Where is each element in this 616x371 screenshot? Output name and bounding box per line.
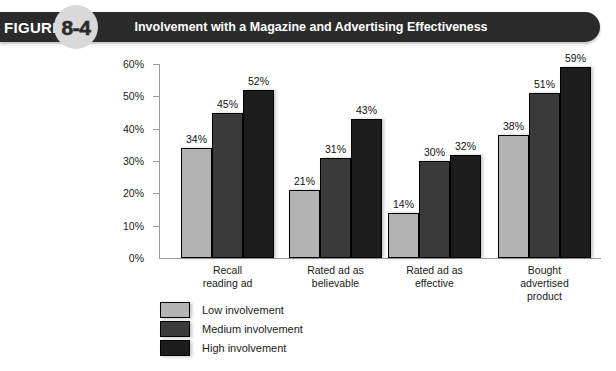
legend-label: Low involvement bbox=[202, 304, 284, 316]
bar: 38% bbox=[498, 135, 529, 258]
bar-value-label: 34% bbox=[186, 133, 207, 145]
legend-label: Medium involvement bbox=[202, 323, 303, 335]
bar-group: 38%51%59%Boughtadvertisedproduct bbox=[498, 64, 591, 258]
bar-value-label: 38% bbox=[503, 120, 524, 132]
plot-bars: 34%45%52%Recallreading ad21%31%43%Rated … bbox=[160, 64, 601, 258]
bar-value-label: 14% bbox=[393, 198, 414, 210]
bar-value-label: 52% bbox=[248, 75, 269, 87]
bar: 52% bbox=[243, 90, 274, 258]
bar-value-label: 43% bbox=[356, 104, 377, 116]
figure-container: FIGURE 8-4 Involvement with a Magazine a… bbox=[0, 0, 616, 371]
figure-title: Involvement with a Magazine and Advertis… bbox=[134, 20, 487, 34]
y-axis-tick-label: 60% bbox=[123, 58, 144, 70]
y-axis-tick-mark bbox=[153, 96, 159, 97]
y-axis-labels: 60%50%40%30%20%10%0% bbox=[96, 52, 144, 258]
y-axis-tick-mark bbox=[153, 129, 159, 130]
bar: 51% bbox=[529, 93, 560, 258]
x-axis-category-label: Rated ad aseffective bbox=[406, 264, 463, 290]
y-axis-tick-label: 30% bbox=[123, 155, 144, 167]
bar-value-label: 30% bbox=[424, 146, 445, 158]
bar: 21% bbox=[289, 190, 320, 258]
figure-number-label: 8-4 bbox=[62, 17, 91, 38]
x-axis-line bbox=[159, 258, 601, 259]
bar-value-label: 31% bbox=[325, 143, 346, 155]
legend-item: Low involvement bbox=[160, 300, 303, 319]
legend-label: High involvement bbox=[202, 342, 286, 354]
bar: 45% bbox=[212, 113, 243, 259]
y-axis-tick-label: 50% bbox=[123, 90, 144, 102]
bar: 34% bbox=[181, 148, 212, 258]
y-axis-tick-label: 20% bbox=[123, 187, 144, 199]
figure-header-bar: FIGURE 8-4 Involvement with a Magazine a… bbox=[0, 12, 600, 42]
x-axis-category-label: Recallreading ad bbox=[203, 264, 253, 290]
legend-swatch bbox=[160, 340, 190, 356]
bar: 14% bbox=[388, 213, 419, 258]
legend-swatch bbox=[160, 321, 190, 337]
bar: 43% bbox=[351, 119, 382, 258]
bar-value-label: 21% bbox=[294, 175, 315, 187]
y-axis-tick-label: 10% bbox=[123, 220, 144, 232]
legend-swatch bbox=[160, 302, 190, 318]
x-axis-category-label: Rated ad asbelievable bbox=[307, 264, 364, 290]
bar-group: 14%30%32%Rated ad aseffective bbox=[388, 64, 481, 258]
bar-value-label: 59% bbox=[565, 52, 586, 64]
y-axis-tick-mark bbox=[153, 193, 159, 194]
bar-value-label: 45% bbox=[217, 98, 238, 110]
legend-item: High involvement bbox=[160, 338, 303, 357]
legend-item: Medium involvement bbox=[160, 319, 303, 338]
chart-area: 60%50%40%30%20%10%0% 34%45%52%Recallread… bbox=[0, 52, 616, 292]
figure-number-badge: 8-4 bbox=[54, 5, 98, 49]
bar: 31% bbox=[320, 158, 351, 258]
y-axis-tick-label: 40% bbox=[123, 123, 144, 135]
bar: 59% bbox=[560, 67, 591, 258]
y-axis-tick-label: 0% bbox=[129, 252, 144, 264]
y-axis-tick-mark bbox=[153, 161, 159, 162]
bar-group: 34%45%52%Recallreading ad bbox=[181, 64, 274, 258]
chart-legend: Low involvementMedium involvementHigh in… bbox=[160, 300, 303, 357]
bar: 30% bbox=[419, 161, 450, 258]
y-axis-tick-mark bbox=[153, 226, 159, 227]
bar: 32% bbox=[450, 155, 481, 258]
bar-value-label: 51% bbox=[534, 78, 555, 90]
x-axis-category-label: Boughtadvertisedproduct bbox=[520, 264, 568, 303]
bar-group: 21%31%43%Rated ad asbelievable bbox=[289, 64, 382, 258]
bar-value-label: 32% bbox=[455, 140, 476, 152]
y-axis-tick-mark bbox=[153, 64, 159, 65]
